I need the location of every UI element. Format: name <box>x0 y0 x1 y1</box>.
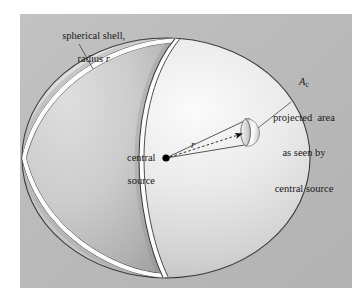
label-projected-area-line2: as seen by <box>250 147 358 159</box>
label-spherical-shell-line1: spherical shell, <box>62 30 125 41</box>
patch-rim-ellipse <box>241 119 251 147</box>
label-central-source-line2: source <box>128 175 155 186</box>
label-projected-area-line3: central source <box>250 183 358 195</box>
label-radius-symbol: r <box>191 139 195 150</box>
label-projected-area-subscript: c <box>306 79 309 88</box>
label-central-source-line1: central <box>127 152 156 163</box>
label-projected-area: Ac projected area as seen by central sou… <box>250 52 358 218</box>
label-spherical-shell-line2-prefix: radius <box>78 53 106 64</box>
label-projected-area-symbol-row: Ac <box>250 76 358 89</box>
label-spherical-shell: spherical shell, radius r <box>36 18 141 77</box>
central-source-dot <box>162 154 169 161</box>
figure-root: spherical shell, radius r Ac projected a… <box>0 0 363 303</box>
label-projected-area-line1: projected area <box>250 112 358 124</box>
label-central-source: central source <box>110 140 162 199</box>
label-spherical-shell-radius-symbol: r <box>106 53 110 64</box>
